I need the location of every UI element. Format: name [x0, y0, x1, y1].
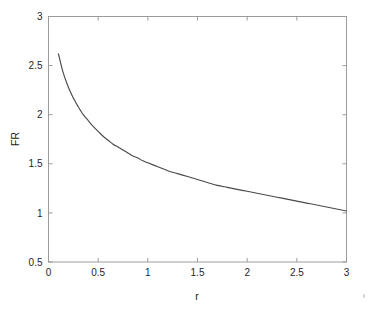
- y-axis-ticks: [49, 17, 347, 263]
- x-tick-label: 1: [145, 267, 151, 278]
- data-series-fr: [58, 54, 346, 211]
- x-axis-tick-labels: 00.511.522.53: [46, 267, 350, 278]
- plot-axes-box: [49, 17, 347, 263]
- y-tick-label: 3: [37, 11, 43, 22]
- x-tick-label: 0: [46, 267, 52, 278]
- y-axis-title: FR: [9, 132, 21, 146]
- y-axis-tick-labels: 0.511.522.53: [29, 11, 43, 268]
- y-tick-label: 1.5: [29, 158, 43, 169]
- y-tick-label: 1: [37, 208, 43, 219]
- x-tick-label: 0.5: [91, 267, 105, 278]
- line-chart: 00.511.522.53 0.511.522.53 r FR: [0, 0, 371, 312]
- y-tick-label: 0.5: [29, 257, 43, 268]
- x-tick-label: 2: [244, 267, 250, 278]
- corner-artifact: [363, 294, 365, 298]
- figure-canvas: 00.511.522.53 0.511.522.53 r FR: [0, 0, 371, 312]
- y-tick-label: 2: [37, 109, 43, 120]
- y-tick-label: 2.5: [29, 60, 43, 71]
- x-axis-title: r: [195, 290, 199, 302]
- x-tick-label: 2.5: [290, 267, 304, 278]
- x-tick-label: 1.5: [191, 267, 205, 278]
- x-axis-ticks: [49, 17, 347, 263]
- x-tick-label: 3: [344, 267, 350, 278]
